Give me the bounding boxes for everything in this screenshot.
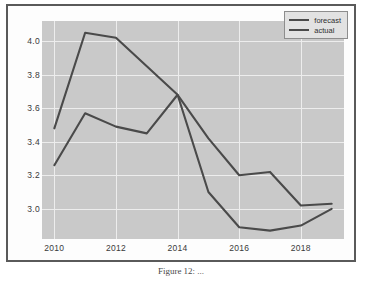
legend: forecast actual — [284, 11, 348, 39]
x-axis-tick: 2018 — [279, 243, 323, 253]
y-axis-tick: 4.0 — [12, 36, 40, 46]
x-axis-tick: 2012 — [94, 243, 138, 253]
x-axis-tick: 2014 — [156, 243, 200, 253]
legend-item-forecast: forecast — [289, 15, 341, 25]
x-axis-tick: 2016 — [217, 243, 261, 253]
y-axis-tick: 3.8 — [12, 70, 40, 80]
series-line-forecast — [54, 33, 331, 231]
y-axis-tick-labels: 4.03.83.63.43.23.0 — [10, 21, 40, 239]
y-axis-tick: 3.4 — [12, 137, 40, 147]
y-axis-tick: 3.6 — [12, 103, 40, 113]
y-axis-tick: 3.0 — [12, 204, 40, 214]
legend-swatch-actual — [289, 29, 309, 31]
plot-area — [42, 21, 344, 239]
legend-swatch-forecast — [289, 19, 309, 21]
figure-frame: 4.03.83.63.43.23.0 20102012201420162018 … — [6, 4, 356, 262]
legend-item-actual: actual — [289, 25, 341, 35]
legend-label-actual: actual — [314, 26, 334, 35]
x-axis-tick-labels: 20102012201420162018 — [42, 243, 344, 257]
figure-caption: Figure 12: ... — [6, 266, 356, 276]
series-lines — [42, 21, 344, 239]
x-axis-tick: 2010 — [32, 243, 76, 253]
y-axis-tick: 3.2 — [12, 170, 40, 180]
series-line-actual — [54, 95, 331, 206]
legend-label-forecast: forecast — [314, 16, 341, 25]
